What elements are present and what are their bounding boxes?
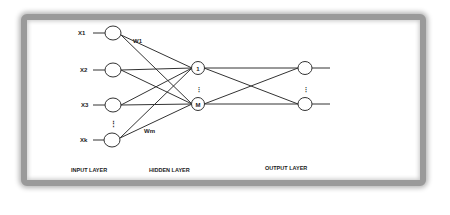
output-ellipsis: ⋮ (303, 86, 309, 93)
input-node-xk (104, 133, 120, 147)
weight-label-wm: Wm (144, 128, 155, 134)
input-label-x3: X3 (81, 102, 89, 108)
hidden-label-m: M (196, 102, 201, 108)
input-node-x3 (105, 98, 121, 112)
input-label-xk: Xk (80, 137, 88, 143)
output-layer-label: OUTPUT LAYER (265, 165, 307, 171)
input-hidden-connections (120, 35, 192, 138)
input-node-x2 (105, 63, 121, 77)
output-node-2 (298, 98, 312, 111)
neural-network-diagram: X1 X2 X3 Xk ⋮ W1 Wm 1 M ⋮ ⋮ INPUT LAYER … (0, 0, 450, 215)
input-label-x1: X1 (78, 30, 86, 36)
input-ellipsis: ⋮ (110, 120, 117, 128)
hidden-ellipsis: ⋮ (196, 86, 202, 93)
hidden-layer-label: HIDDEN LAYER (149, 167, 190, 173)
weight-label-w1: W1 (133, 38, 143, 44)
hidden-output-connections (204, 68, 298, 104)
input-layer-label: INPUT LAYER (71, 167, 107, 173)
input-label-x2: X2 (80, 67, 88, 73)
input-node-x1 (105, 26, 121, 40)
output-node-1 (298, 62, 312, 75)
